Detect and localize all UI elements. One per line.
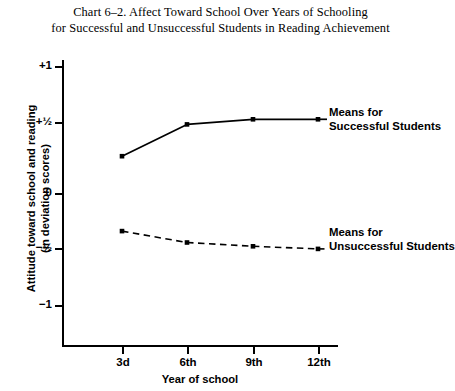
data-point-3d: [120, 154, 125, 159]
annotation-successful-students: Means for Successful Students: [329, 105, 441, 133]
series-markers-successful: [120, 117, 321, 159]
series-line-successful: [122, 119, 318, 156]
annotation-successful-line-1: Means for: [329, 105, 441, 119]
annotation-successful-line-2: Successful Students: [329, 119, 441, 133]
annotation-unsuccessful-line-1: Means for: [329, 225, 455, 239]
data-point-3d: [120, 229, 125, 234]
annotation-unsuccessful-students: Means for Unsuccessful Students: [329, 225, 455, 253]
data-point-9th: [251, 117, 256, 122]
data-point-6th: [185, 122, 190, 127]
series-line-unsuccessful: [122, 231, 318, 249]
data-point-9th: [251, 244, 256, 249]
annotation-unsuccessful-line-2: Unsuccessful Students: [329, 239, 455, 253]
data-point-6th: [185, 240, 190, 245]
